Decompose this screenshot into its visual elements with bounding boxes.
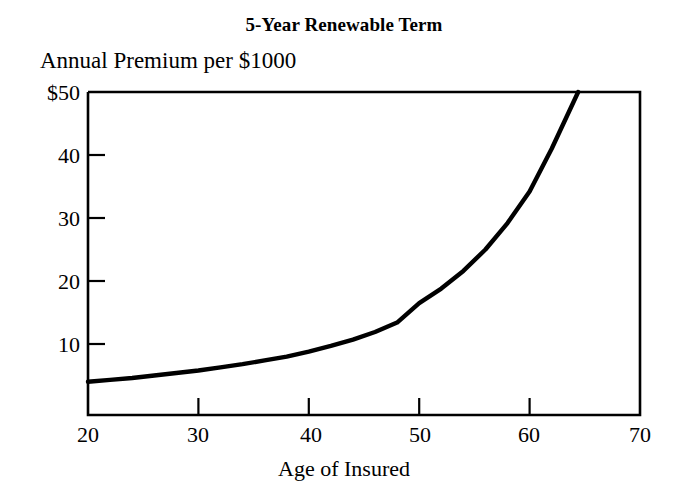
plot-canvas: [0, 0, 688, 498]
premium-curve: [88, 92, 578, 382]
chart-figure: 5-Year Renewable Term Annual Premium per…: [0, 0, 688, 498]
